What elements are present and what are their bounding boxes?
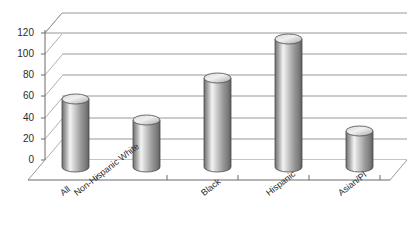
x-tick-label-hispanic: Hispanic: [264, 169, 297, 198]
x-tick-label-asian-pi: Asian/PI: [336, 169, 369, 198]
x-tick-label-non-hispanic-white: Non-Hispanic White: [72, 141, 141, 198]
x-tick-label-black: Black: [199, 176, 223, 197]
chart-container: 120 100 80 60 40 20 0 All Non-Hispanic W…: [0, 0, 411, 252]
x-axis-labels: All Non-Hispanic White Black Hispanic As…: [0, 0, 411, 252]
x-tick-label-all: All: [58, 184, 72, 198]
